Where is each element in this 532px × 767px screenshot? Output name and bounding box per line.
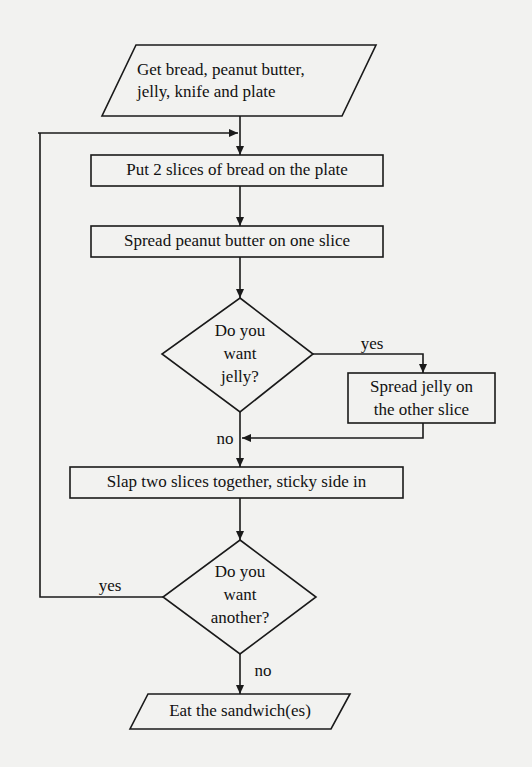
end-text: Eat the sandwich(es): [140, 701, 340, 721]
jelly-step-text-line1: Spread jelly on: [348, 377, 495, 397]
decision2-yes-label: yes: [90, 576, 130, 596]
start-parallelogram: [102, 45, 376, 116]
decision2-text-line2: want: [190, 585, 290, 605]
step1-text: Put 2 slices of bread on the plate: [91, 160, 383, 180]
decision1-text-line3: jelly?: [190, 367, 290, 387]
decision2-text-line3: another?: [190, 608, 290, 628]
decision1-text-line2: want: [190, 344, 290, 364]
decision2-text-line1: Do you: [190, 562, 290, 582]
step3-text: Slap two slices together, sticky side in: [70, 472, 403, 492]
decision1-yes-label: yes: [352, 334, 392, 354]
jelly-step-text-line2: the other slice: [348, 400, 495, 420]
start-text-line1: Get bread, peanut butter,: [137, 60, 347, 80]
decision1-text-line1: Do you: [190, 321, 290, 341]
decision1-no-label: no: [212, 429, 238, 449]
start-text-line2: jelly, knife and plate: [137, 82, 347, 102]
step2-text: Spread peanut butter on one slice: [91, 231, 383, 251]
decision2-no-label: no: [248, 661, 278, 681]
